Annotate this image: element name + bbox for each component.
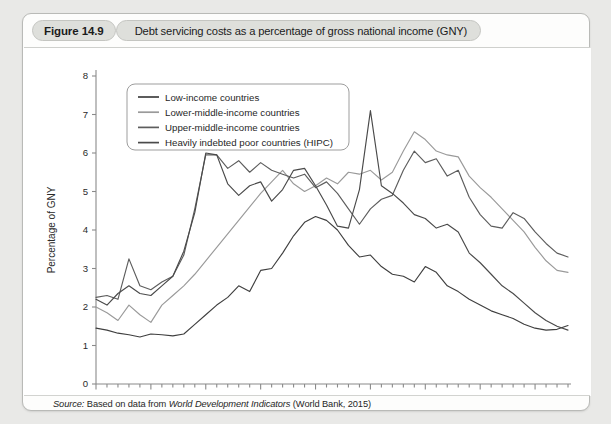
chart-legend: Low-income countriesLower-middle-income … [127,84,349,150]
figure-title-badge: Debt servicing costs as a percentage of … [116,20,482,41]
y-tick-label: 5 [83,186,88,197]
figure-number-label: Figure 14.9 [33,25,115,37]
y-tick-label: 7 [83,109,88,120]
figure-header: Figure 14.9 Debt servicing costs as a pe… [23,14,591,47]
source-prefix: Source: [53,399,84,409]
figure-number-badge: Figure 14.9 [32,20,116,41]
series-line-0 [96,217,568,338]
y-tick-label: 3 [83,263,88,274]
figure-card: Figure 14.9 Debt servicing costs as a pe… [22,13,590,411]
y-axis-title: Percentage of GNY [46,186,57,273]
chart-plot-container: 0123456781970197519801985199019952000200… [23,48,591,396]
source-text-after: (World Bank, 2015) [290,399,371,409]
y-tick-label: 2 [83,301,88,312]
legend-label-1: Lower-middle-income countries [165,107,300,118]
source-note: Source: Based on data from World Develop… [53,399,371,409]
legend-label-2: Upper-middle-income countries [165,122,300,133]
figure-title-label: Debt servicing costs as a percentage of … [123,25,481,37]
y-tick-label: 0 [83,378,88,389]
source-text-before: Based on data from [84,399,168,409]
y-tick-label: 6 [83,147,88,158]
y-tick-label: 4 [83,224,89,235]
footer-divider [24,395,590,396]
y-tick-label: 8 [83,70,88,81]
y-axis-title-text: Percentage of GNY [46,186,57,273]
legend-label-0: Low-income countries [165,92,259,103]
line-chart: 0123456781970197519801985199019952000200… [23,48,591,396]
source-publication: World Development Indicators [169,399,291,409]
y-tick-label: 1 [83,340,88,351]
screenshot-page: Figure 14.9 Debt servicing costs as a pe… [0,0,611,424]
legend-label-3: Heavily indebted poor countries (HIPC) [165,137,333,148]
